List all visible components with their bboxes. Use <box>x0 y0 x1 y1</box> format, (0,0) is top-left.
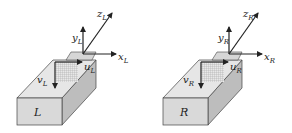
y-label: yL <box>71 32 83 46</box>
lens-block <box>212 52 242 60</box>
right-camera: R uR vR xR yR zR <box>163 8 276 125</box>
box-label: R <box>179 106 188 119</box>
image-plane-grid <box>55 62 78 82</box>
x-label: xL <box>118 51 129 65</box>
y-label: yR <box>217 32 230 46</box>
stereo-camera-diagram: L uL vL xL yL zL R uR vR xR yR zR <box>0 0 292 133</box>
z-axis-arrow <box>229 13 258 54</box>
z-label: zL <box>96 8 107 22</box>
x-label: xR <box>264 51 276 65</box>
image-plane-grid <box>201 62 224 82</box>
z-axis-arrow <box>83 13 112 54</box>
z-label: zR <box>242 8 254 22</box>
left-camera: L uL vL xL yL zL <box>17 8 129 125</box>
box-label: L <box>33 106 41 119</box>
lens-block <box>66 52 96 60</box>
